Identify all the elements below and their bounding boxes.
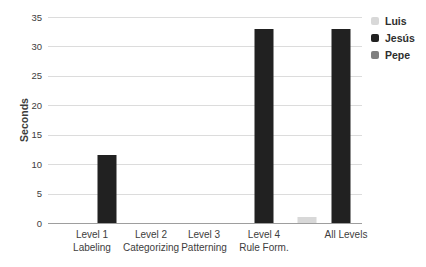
x-axis-label-line2: Labeling xyxy=(73,241,111,254)
bar-group-5 xyxy=(298,17,385,223)
x-axis-label-2: Level 2Categorizing xyxy=(123,228,179,254)
x-axis-line xyxy=(48,223,362,224)
y-tick-label: 25 xyxy=(8,70,42,81)
y-tick-label: 10 xyxy=(8,159,42,170)
x-axis-label-4: Level 4Rule Form. xyxy=(239,228,288,254)
x-axis-label-line1: Level 1 xyxy=(73,228,111,241)
x-axis-label-line1: Level 4 xyxy=(239,228,288,241)
x-axis-label-line2: Patterning xyxy=(181,241,227,254)
x-axis-label-3: Level 3Patterning xyxy=(181,228,227,254)
bar-chart: Seconds LuisJesúsPepe 05101520253035Leve… xyxy=(0,0,426,267)
x-axis-label-line1: All Levels xyxy=(325,228,368,241)
bar-luis-5 xyxy=(298,217,317,223)
y-tick-label: 15 xyxy=(8,129,42,140)
x-axis-label-line2: Categorizing xyxy=(123,241,179,254)
x-axis-label-line1: Level 2 xyxy=(123,228,179,241)
y-tick-label: 20 xyxy=(8,100,42,111)
x-axis-label-line2: Rule Form. xyxy=(239,241,288,254)
x-axis-label-1: Level 1Labeling xyxy=(73,228,111,254)
legend-label: Pepe xyxy=(385,49,410,61)
bar-jesús-4 xyxy=(255,29,274,223)
bar-jesús-5 xyxy=(332,29,351,223)
legend-label: Jesús xyxy=(385,32,415,44)
x-axis-label-5: All Levels xyxy=(325,228,368,241)
y-tick-label: 30 xyxy=(8,41,42,52)
y-tick-label: 5 xyxy=(8,188,42,199)
y-tick-label: 0 xyxy=(8,218,42,229)
y-tick-label: 35 xyxy=(8,12,42,23)
legend-label: Luis xyxy=(385,15,407,27)
x-axis-label-line1: Level 3 xyxy=(181,228,227,241)
bar-group-4 xyxy=(221,17,308,223)
